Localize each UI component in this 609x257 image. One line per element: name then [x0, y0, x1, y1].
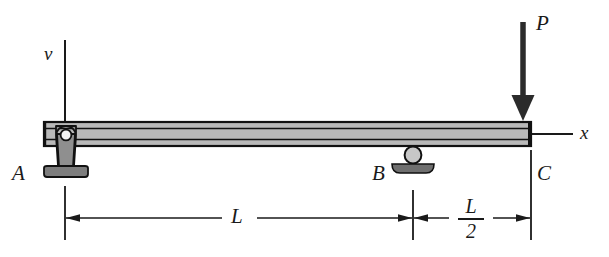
dimension-L-arrowhead-left: [66, 214, 80, 222]
roller-base-plate: [392, 164, 434, 173]
diagram-canvas: [0, 0, 609, 257]
fraction-denominator: 2: [458, 221, 484, 242]
dimension-L2-arrowhead-right: [516, 214, 530, 222]
load-label-p: P: [536, 13, 549, 34]
dimension-label-L-over-2: L 2: [458, 196, 484, 242]
roller-circle: [405, 147, 422, 164]
beam-body: [44, 122, 531, 146]
roller-support-b: [392, 147, 434, 173]
pin-base-plate: [44, 166, 88, 177]
load-arrow-p: [512, 22, 535, 121]
x-axis-label: x: [580, 123, 588, 142]
point-label-a: A: [12, 163, 25, 184]
load-arrow-head: [512, 95, 535, 121]
v-axis-label: v: [44, 44, 52, 63]
dimension-L2-arrowhead-left: [414, 214, 428, 222]
pin-hole-icon: [61, 130, 72, 141]
dimension-label-L: L: [231, 206, 243, 227]
beam-diagram: v x P A B C L L 2: [0, 0, 609, 257]
point-label-c: C: [537, 163, 551, 184]
beam: [44, 121, 531, 147]
fraction-numerator: L: [458, 196, 484, 217]
point-label-b: B: [372, 163, 385, 184]
dimension-L-arrowhead-right: [398, 214, 412, 222]
